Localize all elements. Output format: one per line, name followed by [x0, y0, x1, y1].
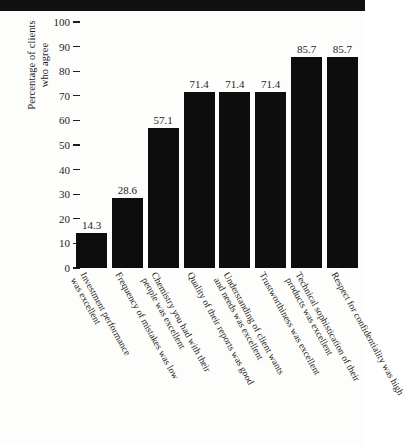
bar [219, 92, 250, 268]
y-axis-title-line-2: who agree [39, 0, 52, 130]
bar [327, 57, 358, 268]
x-axis-labels: Investment performancewas excellentFrequ… [76, 270, 358, 446]
y-axis-tick-label: 50 [59, 139, 70, 151]
bar-value-label: 57.1 [154, 114, 173, 126]
bar-value-label: 71.4 [261, 78, 280, 90]
bar [255, 92, 286, 268]
bar-value-label: 14.3 [82, 219, 101, 231]
bar [291, 57, 322, 268]
bar-slot: 14.3 [76, 22, 107, 268]
bar-slot: 71.4 [184, 22, 215, 268]
bar-series: 14.328.657.171.471.471.485.785.7 [76, 22, 358, 268]
y-axis-tick-label: 60 [59, 114, 70, 126]
y-axis-tick-label: 80 [59, 65, 70, 77]
y-axis-tick-label: 0 [65, 262, 71, 274]
bar [184, 92, 215, 268]
bar-slot: 85.7 [327, 22, 358, 268]
bar-value-label: 85.7 [333, 43, 352, 55]
bar-value-label: 71.4 [225, 78, 244, 90]
bar-value-label: 71.4 [189, 78, 208, 90]
bar-value-label: 28.6 [118, 184, 137, 196]
y-axis-tick-label: 30 [59, 188, 70, 200]
plot-area: 14.328.657.171.471.471.485.785.7 [76, 22, 358, 268]
y-axis-tick-label: 90 [59, 41, 70, 53]
bar-slot: 71.4 [255, 22, 286, 268]
y-axis-tick-label: 20 [59, 213, 70, 225]
bar [112, 198, 143, 268]
y-axis-tick-label: 70 [59, 90, 70, 102]
y-axis-tick-label: 40 [59, 164, 70, 176]
bar-slot: 57.1 [148, 22, 179, 268]
y-axis-tick-label: 10 [59, 237, 70, 249]
y-axis-tick-label: 100 [54, 16, 71, 28]
y-axis-title-line-1: Percentage of clients [26, 0, 39, 130]
bar [76, 233, 107, 268]
bar [148, 128, 179, 268]
bar-slot: 85.7 [291, 22, 322, 268]
bar-slot: 28.6 [112, 22, 143, 268]
bar-value-label: 85.7 [297, 43, 316, 55]
bar-slot: 71.4 [219, 22, 250, 268]
